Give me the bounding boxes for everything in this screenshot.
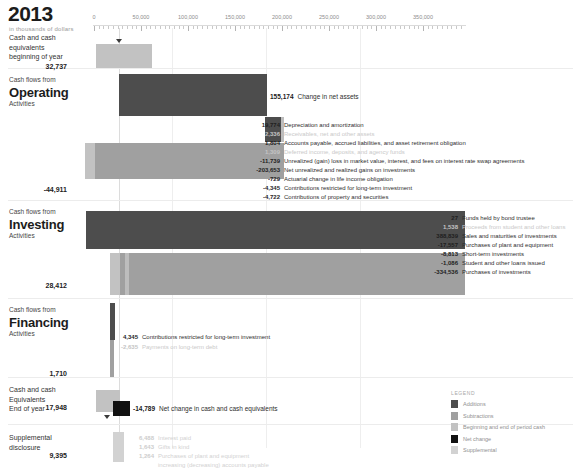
legend-item: Additions [451, 400, 576, 408]
investing-item: -17,557Purchases of plant and equipment [426, 241, 553, 250]
axis-tick [414, 26, 415, 29]
legend-item: Net change [451, 435, 576, 443]
axis-rule [93, 25, 466, 26]
legend-label: Supplemental [463, 447, 497, 453]
axis-tick [357, 26, 358, 29]
supplemental-item: increasing (decreasing) accounts payable [128, 461, 269, 469]
investing-item: -334,536Purchases of investments [426, 268, 531, 277]
operating-item-value: 2,336 [248, 130, 280, 139]
legend-item: Beginning and end of period cash [451, 423, 576, 431]
axis-tick [226, 26, 227, 29]
legend-label: Subtractions [463, 413, 494, 419]
axis-tick [136, 26, 137, 29]
bar-operating-subtractions-edge [85, 143, 95, 179]
axis-tick [320, 26, 321, 29]
operating-callout: 155,174Change in net assets [270, 92, 359, 101]
operating-item-value: -11,739 [248, 157, 280, 166]
axis-tick [273, 26, 274, 29]
financing-pre: Cash flows from [9, 306, 121, 315]
axis-tick-label: 200,000 [272, 14, 292, 20]
axis-tick [188, 26, 189, 31]
axis-tick [390, 26, 391, 29]
bar-investing-subtractions-edge [110, 253, 120, 295]
axis-tick [432, 26, 433, 29]
axis-tick-label: 250,000 [319, 14, 339, 20]
axis-tick-label: 150,000 [225, 14, 245, 20]
axis-tick [461, 26, 462, 29]
axis-tick-label: 100,000 [178, 14, 198, 20]
investing-item-desc: Sales and maturities of investments [462, 233, 557, 239]
net-change-desc: Net change in cash and cash equivalents [159, 405, 278, 412]
axis-tick [174, 26, 175, 29]
operating-item-value: -203,653 [248, 166, 280, 175]
operating-item-value: -4,345 [248, 184, 280, 193]
investing-item-value: -8,813 [426, 250, 458, 259]
operating-item: -203,653Net unrealized and realized gain… [248, 166, 415, 175]
bar-supplemental [113, 432, 124, 462]
investing-item-desc: Student and other loans issued [462, 260, 545, 266]
beginning-cash-line1: Cash and cash [9, 33, 121, 43]
axis-tick [249, 26, 250, 29]
investing-item: 27Funds held by bond trustee [426, 214, 535, 223]
axis-tick-label: 300,000 [366, 14, 386, 20]
axis-tick [179, 26, 180, 29]
axis-tick [385, 26, 386, 29]
axis-tick [329, 26, 330, 31]
legend-swatch [451, 423, 458, 431]
legend-swatch [451, 412, 458, 420]
axis-tick [254, 26, 255, 29]
legend-rows: AdditionsSubtractionsBeginning and end o… [451, 400, 576, 454]
operating-item-desc: Unrealized (gain) loss in market value, … [284, 158, 524, 164]
axis-tick [451, 26, 452, 29]
axis-tick [442, 26, 443, 29]
investing-item-value: -17,557 [426, 241, 458, 250]
axis-tick-label: 0 [92, 14, 95, 20]
operating-item-desc: Receivables, net and other assets [284, 131, 374, 137]
investing-item-value: 388,839 [426, 232, 458, 241]
supplemental-item-value: 1,643 [128, 443, 154, 452]
axis-tick [306, 26, 307, 29]
supplemental-item-desc: Purchases of plant and equipment [158, 453, 249, 459]
operating-item-value: -4,722 [248, 193, 280, 202]
supplemental-item: 6,488Interest paid [128, 434, 191, 443]
operating-title: Operating [9, 85, 121, 100]
axis-tick [207, 26, 208, 29]
axis-tick [291, 26, 292, 29]
supplemental-item-value: 1,264 [128, 452, 154, 461]
investing-item-desc: Funds held by bond trustee [462, 215, 535, 221]
legend-swatch [451, 446, 458, 454]
legend-item: Supplemental [451, 446, 576, 454]
operating-callout-value: 155,174 [270, 93, 294, 100]
axis-tick [193, 26, 194, 29]
bar-investing-subtractions [110, 253, 465, 295]
axis-tick [146, 26, 147, 29]
operating-item-desc: Actuarial change in life income obligati… [284, 176, 393, 182]
operating-item-desc: Depreciation and amortization [284, 122, 364, 128]
financing-post: Activities [9, 330, 121, 339]
legend-label: Beginning and end of period cash [463, 424, 545, 430]
supplemental-item: 1,643Gifts in kind [128, 443, 189, 452]
axis-tick-label: 350,000 [413, 14, 433, 20]
operating-item-desc: Accounts payable, accrued liabilities, a… [284, 140, 466, 146]
axis-tick [343, 26, 344, 29]
axis-tick [94, 26, 95, 31]
axis-tick [334, 26, 335, 29]
axis-tick [423, 26, 424, 31]
operating-item: -4,345Contributions restricted for long-… [248, 184, 412, 193]
axis-tick [113, 26, 114, 29]
row-separator [8, 298, 573, 299]
axis-tick [202, 26, 203, 29]
operating-item-desc: Contributions restricted for long-term i… [284, 185, 412, 191]
net-change-value: -14,789 [133, 405, 155, 412]
axis-tick [338, 26, 339, 29]
axis-tick [122, 26, 123, 29]
financing-item-desc: Contributions restricted for long-term i… [142, 334, 270, 340]
investing-total: 28,412 [0, 282, 67, 289]
axis-tick [353, 26, 354, 29]
axis-tick [282, 26, 283, 31]
axis-tick [437, 26, 438, 29]
axis-tick [165, 26, 166, 29]
supplemental-item: 1,264Purchases of plant and equipment [128, 452, 249, 461]
axis-tick [230, 26, 231, 29]
axis-tick [141, 26, 142, 31]
